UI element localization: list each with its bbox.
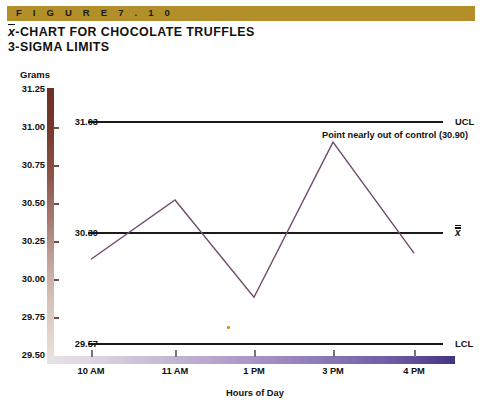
y-axis-tick-label: 30.50	[5, 198, 45, 208]
out-of-control-annotation: Point nearly out of control (30.90)	[322, 130, 468, 140]
y-axis-tick-label: 29.50	[5, 350, 45, 360]
x-axis-tick-label: 4 PM	[384, 366, 444, 376]
lcl-name-label: LCL	[455, 339, 473, 349]
stray-marker-dot	[227, 326, 230, 329]
x-axis-tick-label: 1 PM	[224, 366, 284, 376]
ucl-name-label: UCL	[455, 117, 474, 127]
y-axis-tick-label: 30.25	[5, 236, 45, 246]
center-value-label: 30.30	[54, 228, 98, 238]
x-axis-tick	[175, 350, 177, 357]
y-axis-tick-label: 31.00	[5, 122, 45, 132]
center-name-label: x	[455, 228, 461, 238]
y-axis-gradient-bar	[47, 88, 54, 356]
x-axis-tick	[333, 350, 335, 357]
x-axis-gradient-bar	[47, 356, 455, 364]
y-axis-tick-label: 29.75	[5, 312, 45, 322]
y-axis-tick-label: 30.00	[5, 274, 45, 284]
x-axis-tick	[91, 350, 93, 357]
y-axis-tick	[54, 165, 59, 167]
x-axis-tick	[414, 350, 416, 357]
y-axis-title: Grams	[20, 69, 50, 80]
lcl-line	[88, 343, 443, 345]
ucl-line	[88, 121, 443, 123]
series-polyline	[91, 142, 414, 297]
y-axis-tick-label: 30.75	[5, 160, 45, 170]
x-axis-tick	[254, 350, 256, 357]
lcl-value-label: 29.57	[54, 339, 98, 349]
y-axis-tick	[54, 203, 59, 205]
ucl-value-label: 31.03	[54, 117, 98, 127]
y-axis-tick	[54, 127, 59, 129]
figure-container: F I G U R E 7 . 1 0 x-CHART FOR CHOCOLAT…	[0, 0, 490, 412]
x-axis-tick-label: 11 AM	[145, 366, 205, 376]
x-axis-tick-label: 10 AM	[61, 366, 121, 376]
x-axis-tick-label: 3 PM	[303, 366, 363, 376]
y-axis-tick	[54, 317, 59, 319]
y-axis-tick	[54, 241, 59, 243]
data-series-line	[0, 0, 490, 412]
y-axis-tick-label: 31.25	[5, 84, 45, 94]
x-axis-title: Hours of Day	[195, 388, 315, 398]
x-double-bar-glyph: x	[455, 228, 461, 238]
center-line	[88, 232, 443, 234]
y-axis-tick	[54, 279, 59, 281]
chart-plot-area: Grams 31.25 31.00 30.75 30.50 30.25 30.0…	[0, 0, 490, 412]
